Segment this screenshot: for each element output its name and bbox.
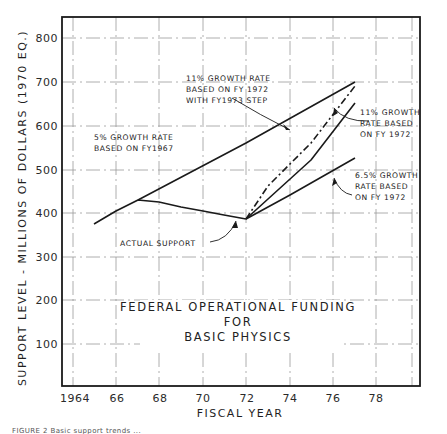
svg-text:5% GROWTH RATE: 5% GROWTH RATE <box>94 133 173 142</box>
svg-text:6.5% GROWTH: 6.5% GROWTH <box>355 171 418 180</box>
svg-text:ACTUAL SUPPORT: ACTUAL SUPPORT <box>120 239 196 248</box>
svg-text:ON FY 1972: ON FY 1972 <box>360 130 411 139</box>
y-tick: 800 <box>36 32 59 45</box>
x-tick: 70 <box>196 392 211 405</box>
annotation-11pct: 11% GROWTH RATE BASED ON FY 1972 <box>360 108 420 139</box>
y-axis-ticks: 800 700 600 500 400 300 200 100 <box>36 32 59 351</box>
x-tick: 76 <box>326 392 341 405</box>
svg-text:11% GROWTH RATE: 11% GROWTH RATE <box>186 74 271 83</box>
chart-svg: 800 700 600 500 400 300 200 100 1964 66 … <box>0 0 447 434</box>
svg-text:ON FY 1972: ON FY 1972 <box>355 193 406 202</box>
series-11pct-fy1972 <box>246 103 355 219</box>
series-actual-support <box>94 200 246 224</box>
y-tick: 600 <box>36 120 59 133</box>
y-tick: 700 <box>36 76 59 89</box>
svg-text:11% GROWTH: 11% GROWTH <box>360 108 420 117</box>
x-tick: 66 <box>110 392 125 405</box>
svg-text:BASIC PHYSICS: BASIC PHYSICS <box>184 330 292 344</box>
x-axis-title: FISCAL YEAR <box>197 407 284 420</box>
annotation-11pct-step: 11% GROWTH RATE BASED ON FY 1972 WITH FY… <box>186 74 271 105</box>
x-tick: 74 <box>283 392 298 405</box>
y-tick: 200 <box>36 294 59 307</box>
y-tick: 100 <box>36 338 59 351</box>
y-axis-title: SUPPORT LEVEL - MILLIONS OF DOLLARS (197… <box>16 30 29 386</box>
svg-text:FOR: FOR <box>224 315 252 329</box>
annotation-6.5pct: 6.5% GROWTH RATE BASED ON FY 1972 <box>355 171 418 202</box>
svg-text:BASED ON FY1967: BASED ON FY1967 <box>94 144 174 153</box>
chart-title: FEDERAL OPERATIONAL FUNDING FOR BASIC PH… <box>120 300 356 350</box>
series-11pct-fy1973-step <box>246 86 355 219</box>
annotation-5pct: 5% GROWTH RATE BASED ON FY1967 <box>94 133 174 153</box>
x-tick: 72 <box>240 392 255 405</box>
annotation-actual: ACTUAL SUPPORT <box>120 239 196 248</box>
x-tick: 1964 <box>60 392 90 405</box>
svg-text:FEDERAL OPERATIONAL FUNDING: FEDERAL OPERATIONAL FUNDING <box>120 300 356 314</box>
y-tick: 400 <box>36 207 59 220</box>
y-tick: 500 <box>36 164 59 177</box>
x-axis-ticks: 1964 66 68 70 72 74 76 78 <box>60 392 384 405</box>
x-tick: 78 <box>369 392 384 405</box>
y-tick: 300 <box>36 251 59 264</box>
series-6.5pct-fy1972 <box>246 158 355 219</box>
figure-caption: FIGURE 2 Basic support trends ... <box>12 427 141 434</box>
svg-text:RATE BASED: RATE BASED <box>355 182 408 191</box>
svg-text:RATE BASED: RATE BASED <box>360 119 413 128</box>
svg-text:BASED ON FY 1972: BASED ON FY 1972 <box>186 85 269 94</box>
x-tick: 68 <box>153 392 168 405</box>
svg-text:WITH FY1973 STEP: WITH FY1973 STEP <box>186 96 268 105</box>
